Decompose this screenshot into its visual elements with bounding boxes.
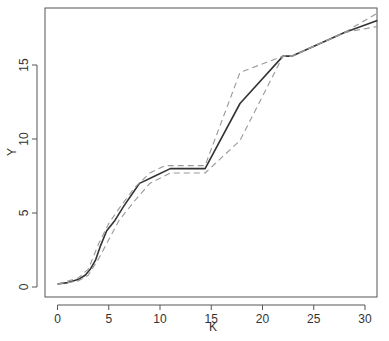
estimate-line xyxy=(58,21,378,284)
y-tick-label: 5 xyxy=(17,209,31,216)
x-tick-label: 30 xyxy=(358,312,372,326)
x-tick-label: 25 xyxy=(307,312,321,326)
x-tick-label: 5 xyxy=(105,312,112,326)
x-axis-label: K xyxy=(209,320,217,334)
series-layer xyxy=(58,13,378,284)
x-tick-label: 20 xyxy=(256,312,270,326)
y-tick-label: 10 xyxy=(17,132,31,146)
confidence-band-line xyxy=(58,27,378,285)
line-chart: 051015202530 051015 K Y xyxy=(0,0,389,341)
x-tick-label: 10 xyxy=(153,312,167,326)
y-tick-label: 15 xyxy=(17,58,31,72)
y-axis-label: Y xyxy=(5,148,19,156)
y-tick-label: 0 xyxy=(17,283,31,290)
y-axis: 051015 xyxy=(17,58,37,290)
confidence-band-line xyxy=(58,13,378,284)
x-tick-label: 0 xyxy=(54,312,61,326)
